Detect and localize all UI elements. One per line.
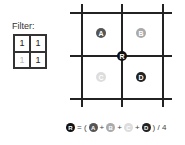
formula-c: C: [124, 123, 133, 132]
formula: R = ( A + B + C + D ) / 4: [66, 123, 166, 132]
formula-plus: +: [135, 123, 140, 132]
filter-label: Filter:: [12, 21, 35, 31]
formula-b: B: [106, 123, 115, 132]
point-b: B: [136, 28, 146, 38]
filter-cell: 1: [14, 52, 30, 69]
point-a: A: [96, 28, 106, 38]
grid-line-v-left: [81, 4, 83, 107]
grid-line-v-right: [162, 4, 164, 107]
point-d: D: [136, 72, 146, 82]
formula-r: R: [66, 123, 75, 132]
formula-plus: +: [117, 123, 122, 132]
point-c: C: [96, 72, 106, 82]
filter-cell: 1: [30, 52, 46, 69]
filter-kernel-grid: 1 1 1 1: [13, 34, 47, 69]
formula-tail: ) / 4: [153, 123, 167, 132]
formula-equals: = (: [77, 123, 87, 132]
formula-a: A: [89, 123, 98, 132]
formula-d: D: [142, 123, 151, 132]
formula-plus: +: [100, 123, 105, 132]
filter-cell: 1: [30, 35, 46, 52]
point-r: R: [117, 51, 127, 61]
filter-cell: 1: [14, 35, 30, 52]
